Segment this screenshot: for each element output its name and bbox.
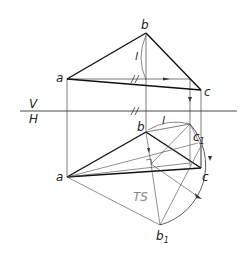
pivot-to-b1-line: [151, 164, 160, 225]
arrow-right-icon: [163, 78, 170, 81]
label-l-v: l: [135, 50, 138, 63]
label-a-v: a: [56, 71, 63, 85]
label-c1-h: c1: [193, 130, 205, 146]
length-arc-v: [141, 35, 146, 80]
edge-ab-h: [67, 132, 146, 177]
arrow-down-icon: [147, 148, 150, 153]
label-b-h: b: [137, 120, 145, 134]
label-c-v: c: [204, 85, 211, 99]
c1-to-b1-line: [160, 146, 201, 225]
edge-ac-v: [67, 79, 201, 90]
label-plane-v: V: [29, 97, 38, 111]
label-c-h: c: [202, 170, 209, 184]
arc-arrow-icon: [208, 156, 212, 161]
edge-bc-v: [146, 33, 201, 90]
label-true-size: TS: [133, 190, 148, 204]
label-b-v: b: [141, 18, 149, 32]
projection-diagram: b a c l V H b l c1 c a TS b1: [0, 0, 249, 260]
label-a-h: a: [56, 170, 63, 184]
label-l-h: l: [162, 114, 165, 127]
arrow-down-icon: [188, 97, 192, 102]
label-b1-h: b1: [156, 229, 169, 245]
length-arc-h: [148, 122, 190, 130]
label-plane-h: H: [29, 112, 38, 126]
